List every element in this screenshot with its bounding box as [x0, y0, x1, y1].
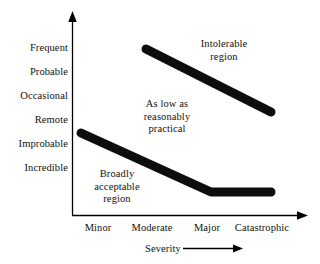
y-tick-occasional: Occasional	[2, 90, 68, 101]
y-tick-remote: Remote	[2, 114, 68, 125]
x-tick-catastrophic: Catastrophic	[235, 222, 289, 233]
broadly-acceptable-line-2: acceptable	[94, 181, 139, 194]
severity-arrow-head	[233, 245, 243, 253]
y-axis-arrowhead	[68, 11, 76, 22]
alarp-risk-diagram: Frequent Probable Occasional Remote Impr…	[0, 0, 320, 264]
x-axis-arrowhead	[297, 211, 308, 220]
x-tick-major: Major	[194, 222, 220, 233]
x-tick-minor: Minor	[85, 222, 112, 233]
alarp-region-label: As low as reasonably practical	[144, 98, 190, 136]
broadly-acceptable-region-label: Broadly acceptable region	[94, 168, 139, 206]
y-tick-probable: Probable	[2, 66, 68, 77]
broadly-acceptable-line-1: Broadly	[94, 168, 139, 181]
broadly-acceptable-line-3: region	[94, 193, 139, 206]
x-tick-moderate: Moderate	[131, 222, 172, 233]
intolerable-region-line-1: Intolerable	[201, 38, 248, 51]
alarp-region-line-2: reasonably	[144, 111, 190, 124]
x-axis-title: Severity	[145, 243, 181, 254]
alarp-region-line-1: As low as	[144, 98, 190, 111]
intolerable-region-label: Intolerable region	[201, 38, 248, 63]
intolerable-region-line-2: region	[201, 51, 248, 64]
alarp-region-line-3: practical	[144, 123, 190, 136]
y-tick-frequent: Frequent	[2, 42, 68, 53]
y-tick-incredible: Incredible	[2, 162, 68, 173]
y-tick-improbable: Improbable	[2, 138, 68, 149]
